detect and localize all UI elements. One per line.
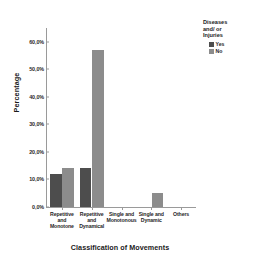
legend-item[interactable]: Yes xyxy=(203,42,261,48)
bar xyxy=(62,168,74,207)
bar xyxy=(152,193,164,207)
y-axis-tick-label: 40,0% xyxy=(0,94,47,100)
x-axis-tick-mark xyxy=(151,207,152,210)
y-axis-tick-label: 10,0% xyxy=(0,176,47,182)
x-axis-title: Classification of Movements xyxy=(40,243,200,252)
bar-group xyxy=(169,28,193,207)
x-axis-tick-mark xyxy=(92,207,93,210)
x-axis-category-label-line: Dynamic xyxy=(132,217,170,223)
y-axis-tick-label: 0,0% xyxy=(0,204,47,210)
bar-group xyxy=(50,28,74,207)
legend-item-label: No xyxy=(216,49,223,55)
y-axis-tick-label: 50,0% xyxy=(0,66,47,72)
legend: Diseasesand/ orInjuries YesNo xyxy=(203,19,261,56)
y-axis-tick-label: 60,0% xyxy=(0,39,47,45)
legend-title-line: Injuries xyxy=(203,32,261,39)
legend-swatch-icon xyxy=(209,42,214,47)
x-axis-tick-mark xyxy=(181,207,182,210)
legend-title: Diseasesand/ orInjuries xyxy=(203,19,261,39)
legend-title-line: and/ or xyxy=(203,26,261,33)
x-axis-category-label-line: Dynamical xyxy=(73,223,111,229)
bar xyxy=(92,50,104,207)
bar-group xyxy=(80,28,104,207)
bar-group xyxy=(139,28,163,207)
x-axis-tick-mark xyxy=(62,207,63,210)
x-axis-category-label: Others xyxy=(162,211,200,217)
bar xyxy=(80,168,92,207)
bar xyxy=(50,174,62,207)
x-axis-category-label-line: Others xyxy=(162,211,200,217)
legend-item[interactable]: No xyxy=(203,49,261,55)
bar-series-container xyxy=(47,28,196,207)
legend-items: YesNo xyxy=(203,42,261,55)
legend-swatch-icon xyxy=(209,49,214,54)
y-axis-tick-label: 30,0% xyxy=(0,121,47,127)
x-axis-tick-mark xyxy=(122,207,123,210)
y-axis-tick-label: 20,0% xyxy=(0,149,47,155)
bar-chart: Percentage 0,0%10,0%20,0%30,0%40,0%50,0%… xyxy=(0,0,263,260)
bar-group xyxy=(110,28,134,207)
legend-item-label: Yes xyxy=(216,42,225,48)
legend-title-line: Diseases xyxy=(203,19,261,26)
